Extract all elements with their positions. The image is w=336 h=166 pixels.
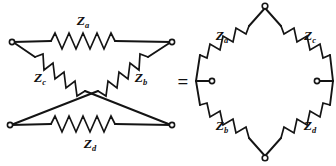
- zd-resistor-zigzag: [51, 116, 115, 132]
- equals-sign: =: [178, 71, 189, 92]
- terminal-left[interactable]: [209, 78, 214, 83]
- label-zc-right: Zc: [303, 28, 316, 45]
- terminal-right[interactable]: [314, 78, 319, 83]
- branch-zc-right: [265, 8, 333, 81]
- label-zd-left: Zd: [83, 136, 97, 153]
- label-zb-right: Zb: [215, 118, 229, 135]
- label-za-right: Za: [215, 28, 229, 45]
- zd-lead-left: [11, 124, 51, 125]
- za-right-lead-bottom: [196, 55, 200, 81]
- zc-right-lead-top: [265, 8, 281, 26]
- right-diamond-circuit: Za Zc Zb Zd: [196, 3, 333, 161]
- branch-zd-right: [265, 81, 333, 156]
- za-right-lead-top: [249, 8, 265, 26]
- zd-lead-right: [115, 124, 171, 125]
- lattice-network-figure: Za Zc Zb Zd =: [0, 0, 336, 166]
- branch-za-right: [196, 8, 265, 81]
- zb-lead-top: [148, 42, 171, 57]
- terminal-top-left[interactable]: [9, 39, 14, 44]
- zd-right-lead-bottom: [265, 138, 281, 156]
- label-zc-left: Zc: [33, 70, 46, 87]
- branch-za-left: [13, 33, 171, 49]
- left-lattice-circuit: Za Zc Zb Zd: [7, 13, 174, 153]
- circuit-diagram-svg: Za Zc Zb Zd =: [0, 0, 336, 166]
- terminal-bottom[interactable]: [262, 155, 268, 161]
- za-lead-left: [13, 41, 51, 42]
- zb-right-lead-bottom: [249, 138, 265, 156]
- zc-right-lead-bottom: [330, 55, 333, 81]
- label-za-left: Za: [76, 13, 90, 30]
- label-zb-left: Zb: [134, 70, 148, 87]
- branch-zb-right: [196, 81, 265, 156]
- zb-right-lead-top: [196, 81, 200, 105]
- terminal-bottom-left[interactable]: [7, 122, 12, 127]
- zc-resistor-zigzag: [35, 54, 85, 96]
- terminal-bottom-right[interactable]: [169, 122, 174, 127]
- zd-right-lead-top: [330, 81, 333, 105]
- zc-lead-top: [13, 42, 35, 57]
- terminal-top-right[interactable]: [169, 39, 174, 44]
- label-zd-right: Zd: [303, 118, 317, 135]
- za-resistor-zigzag: [51, 33, 115, 49]
- branch-zd-left: [11, 116, 171, 132]
- za-lead-right: [115, 41, 171, 42]
- terminal-top[interactable]: [262, 3, 268, 9]
